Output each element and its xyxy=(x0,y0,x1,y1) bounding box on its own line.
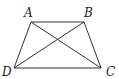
vertex-label-c: C xyxy=(106,65,115,79)
vertex-label-d: D xyxy=(1,65,12,79)
vertex-label-b: B xyxy=(83,6,93,20)
vertex-label-a: A xyxy=(23,6,33,20)
diagonal-bd xyxy=(14,22,84,68)
trapezoid-diagram: A B D C xyxy=(0,0,119,79)
diagonal-ac xyxy=(31,22,101,68)
side-bc xyxy=(84,22,101,68)
side-da xyxy=(14,22,31,68)
